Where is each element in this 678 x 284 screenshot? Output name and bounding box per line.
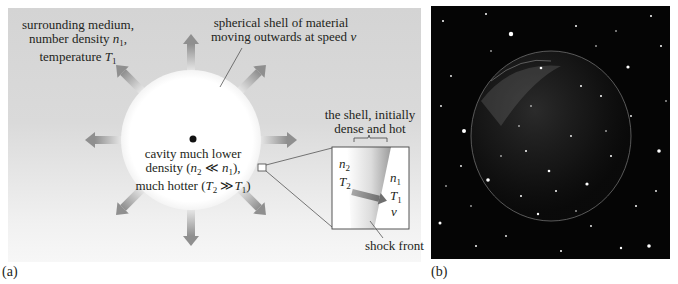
- label-line: cavity much lower: [130, 147, 256, 161]
- label-line: number density n1,: [22, 32, 134, 50]
- label-line: moving outwards at speed v: [211, 30, 351, 44]
- label-line: much hotter (T2 ≫T1): [130, 179, 256, 197]
- surrounding-medium-label: surrounding medium, number density n1, t…: [22, 18, 134, 68]
- velocity-label: v: [391, 205, 397, 219]
- label-line: spherical shell of material: [211, 16, 351, 30]
- label-line: density (n2 ≪ n1),: [130, 161, 256, 179]
- label-line: n2: [339, 157, 351, 175]
- shock-front-label: shock front: [365, 239, 424, 253]
- label-line: surrounding medium,: [22, 18, 134, 32]
- nebula-image: [431, 6, 670, 259]
- inset-title: the shell, initially dense and hot: [324, 108, 416, 136]
- zoom-line-top: [266, 148, 332, 165]
- shell-label: spherical shell of material moving outwa…: [211, 16, 351, 44]
- label-line: the shell, initially: [324, 108, 416, 122]
- cavity-label: cavity much lower density (n2 ≪ n1), muc…: [130, 147, 256, 197]
- diagram-panel-a: surrounding medium, number density n1, t…: [8, 8, 421, 262]
- shell-pointer-line: [220, 48, 242, 87]
- label-line: n1: [390, 171, 402, 189]
- label-line: temperature T1: [22, 50, 134, 68]
- outer-region-vars: n1 T1: [390, 171, 402, 207]
- caption-a: (a): [2, 264, 18, 280]
- caption-b: (b): [431, 264, 447, 280]
- zoom-line-bottom: [266, 171, 332, 227]
- zoom-region-marker: [258, 164, 266, 171]
- shell-brace: [354, 135, 387, 142]
- label-line: dense and hot: [324, 122, 416, 136]
- nebula-photo-panel-b: [431, 6, 670, 259]
- inner-region-vars: n2 T2: [339, 157, 351, 193]
- center-dot: [190, 136, 197, 143]
- label-line: T2: [339, 175, 351, 193]
